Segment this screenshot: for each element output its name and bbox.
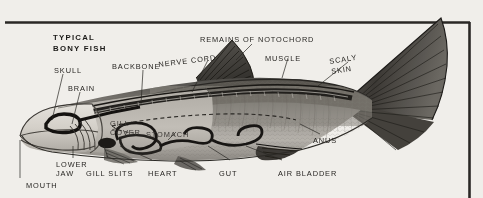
label-lower-jaw-line2: JAW [56,169,74,178]
label-mouth: MOUTH [26,181,58,190]
label-gill-cover-line1: GILL [110,119,130,128]
figure-canvas: TYPICAL BONY FISH SKULL BRAIN BACKBONE N… [0,0,483,198]
label-stomach: STOMACH [146,130,189,139]
figure-title: TYPICAL BONY FISH [53,33,107,54]
label-skull: SKULL [54,66,82,75]
label-heart: HEART [148,169,177,178]
label-air-bladder: AIR BLADDER [278,169,337,178]
label-muscle: MUSCLE [265,54,301,63]
label-gill-cover-line2: COVER [110,128,141,137]
title-line-2: BONY FISH [53,44,107,53]
label-remains-of-notochord: REMAINS OF NOTOCHORD [200,35,314,44]
label-gill-slits: GILL SLITS [86,169,133,178]
label-brain: BRAIN [68,84,95,93]
title-line-1: TYPICAL [53,33,95,42]
label-anus: ANUS [313,136,337,145]
label-backbone: BACKBONE [112,62,160,71]
label-gut: GUT [219,169,237,178]
label-lower-jaw-line1: LOWER [56,160,88,169]
